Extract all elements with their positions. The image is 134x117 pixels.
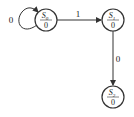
- state-output: 0: [111, 21, 115, 30]
- transition-s0-s0: 0: [9, 8, 38, 29]
- state-s2: S2 0: [102, 86, 124, 108]
- transition-s1-s2: 0: [113, 31, 121, 85]
- transition-label: 0: [116, 54, 121, 64]
- transition-label: 0: [9, 15, 14, 25]
- state-s1: S1 0: [102, 9, 124, 31]
- state-output: 0: [44, 21, 48, 30]
- state-s0: S0 0: [35, 9, 57, 31]
- state-output: 0: [111, 98, 115, 107]
- transition-s0-s1: 1: [57, 9, 101, 20]
- transition-label: 1: [76, 9, 81, 19]
- state-diagram: 0 1 0 S0 0 S1 0 S2 0: [0, 0, 134, 117]
